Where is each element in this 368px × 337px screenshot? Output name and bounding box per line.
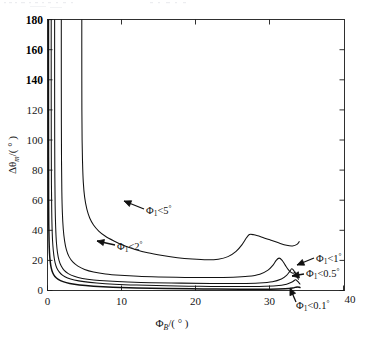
annotation-arrowhead bbox=[292, 272, 299, 278]
y-tick-label-0: 0 bbox=[38, 284, 44, 296]
x-axis-ticks bbox=[48, 20, 344, 291]
x-axis-title-unit: /( ° ) bbox=[168, 317, 189, 330]
annotation-label: Φ1<1° bbox=[316, 252, 342, 266]
svg-text:ΦB/( ° ): ΦB/( ° ) bbox=[156, 317, 189, 332]
annotation-arrowhead bbox=[124, 201, 132, 207]
curve-1 bbox=[55, 20, 299, 284]
annot-phi1-lt-01: Φ1<0.1° bbox=[290, 288, 330, 313]
annotation-label: Φ1<0.5° bbox=[306, 267, 339, 281]
curve-0.1 bbox=[48, 20, 299, 290]
y-tick-label-180: 180 bbox=[26, 14, 44, 26]
y-tick-label-40: 40 bbox=[32, 224, 44, 236]
y-axis-title-unit: /( ° ) bbox=[6, 136, 19, 157]
y-tick-label-80: 80 bbox=[32, 164, 44, 176]
x-tick-label-40: 40 bbox=[345, 293, 357, 305]
x-axis-title-symbol: Φ bbox=[156, 317, 164, 329]
x-tick-label-20: 20 bbox=[190, 295, 202, 307]
y-tick-label-100: 100 bbox=[27, 134, 44, 146]
annotation-label: Φ1<0.1° bbox=[296, 299, 329, 313]
curve-0.5 bbox=[51, 20, 300, 287]
y-tick-label-160: 160 bbox=[26, 44, 44, 56]
y-tick-labels: 180 160 140 120 100 80 60 40 20 0 bbox=[26, 14, 44, 296]
x-axis-title: ΦB/( ° ) bbox=[156, 317, 189, 332]
annotation-label: Φ1<5° bbox=[146, 204, 172, 218]
scan-artifact-band bbox=[4, 2, 186, 8]
figure-container: 180 160 140 120 100 80 60 40 20 0 0 10 2… bbox=[0, 0, 368, 337]
y-axis-ticks bbox=[48, 20, 345, 291]
y-tick-label-120: 120 bbox=[27, 104, 44, 116]
x-tick-label-0: 0 bbox=[45, 295, 51, 307]
chart-plot: 180 160 140 120 100 80 60 40 20 0 0 10 2… bbox=[0, 0, 368, 337]
y-tick-label-140: 140 bbox=[26, 74, 44, 86]
annotation-label: Φ1<2° bbox=[117, 240, 143, 254]
y-tick-label-20: 20 bbox=[32, 254, 44, 266]
annotation-arrowhead bbox=[97, 239, 105, 245]
annot-phi1-lt-2: Φ1<2° bbox=[97, 239, 143, 254]
svg-text:Δθm/( ° ): Δθm/( ° ) bbox=[6, 136, 21, 174]
annotations-group: Φ1<5°Φ1<2°Φ1<1°Φ1<0.5°Φ1<0.1° bbox=[97, 201, 342, 313]
annot-phi1-lt-5: Φ1<5° bbox=[124, 201, 172, 218]
annot-phi1-lt-05: Φ1<0.5° bbox=[292, 267, 339, 281]
curve-2 bbox=[61, 20, 295, 278]
curve-5 bbox=[82, 20, 299, 260]
annotation-arrowhead bbox=[297, 259, 305, 265]
x-tick-label-30: 30 bbox=[264, 295, 276, 307]
x-tick-label-10: 10 bbox=[116, 295, 128, 307]
y-tick-label-60: 60 bbox=[32, 194, 44, 206]
annot-phi1-lt-1: Φ1<1° bbox=[297, 252, 342, 266]
axes-frame bbox=[48, 20, 345, 291]
y-axis-title-symbol: Δθ bbox=[6, 162, 18, 174]
y-axis-title: Δθm/( ° ) bbox=[6, 136, 21, 174]
curve-series-group bbox=[48, 20, 299, 290]
annotation-arrowhead bbox=[290, 288, 296, 296]
